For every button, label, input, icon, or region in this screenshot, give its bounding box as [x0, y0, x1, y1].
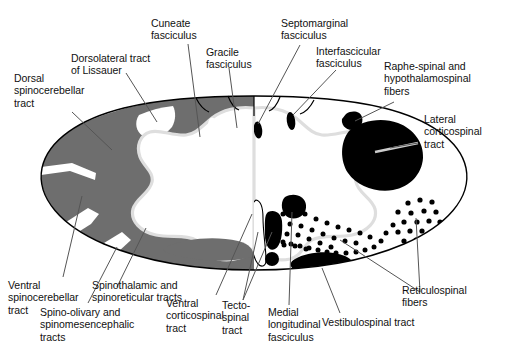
label-dorsolateral-tract-of-lissauer: Dorsolateral tract of Lissauer [71, 52, 181, 77]
label-reticulospinal-fibers: Reticulospinal fibers [402, 284, 494, 309]
label-septomarginal-fasciculus: Septomarginal fasciculus [281, 17, 373, 42]
label-gracile-fasciculus: Gracile fasciculus [206, 46, 278, 71]
label-vestibulospinal-tract: Vestibulospinal tract [322, 316, 452, 328]
spinal-cord-tract-figure: Dorsal spinocerebellar tract Dorsolatera… [0, 0, 509, 355]
medial-longitudinal-fasciculus-blob [282, 195, 306, 219]
label-lateral-corticospinal-tract: Lateral corticospinal tract [424, 113, 502, 150]
label-raphe-spinal-and-hypothalamospinal-fibers: Raphe-spinal and hypothalamospinal fiber… [384, 60, 496, 97]
label-dorsal-spinocerebellar-tract: Dorsal spinocerebellar tract [14, 72, 106, 109]
label-ventral-spinocerebellar-tract: Ventral spinocerebellar tract [8, 279, 96, 316]
right-half-descending-tracts [250, 80, 509, 290]
label-spinothalamic-and-spinoreticular-tracts: Spinothalamic and spinoreticular tracts [92, 279, 216, 304]
dorsal-funiculus-white-oval [208, 118, 216, 133]
tectospinal-tract-blob-small [265, 252, 279, 266]
label-medial-longitudinal-fasciculus: Medial longitudinal fasciculus [268, 306, 338, 343]
label-cuneate-fasciculus: Cuneate fasciculus [151, 17, 227, 42]
